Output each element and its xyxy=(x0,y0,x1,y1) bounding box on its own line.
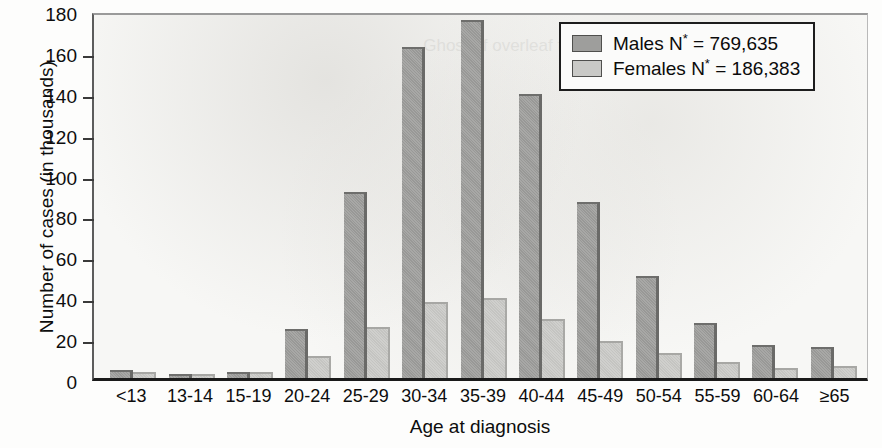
bar-group xyxy=(104,15,162,378)
y-axis-tick-label: 40 xyxy=(56,290,77,312)
bar-males-50-54[interactable] xyxy=(636,276,659,378)
y-axis-tick-label: 100 xyxy=(45,168,77,190)
y-axis-tick-20: 20 xyxy=(83,342,94,344)
bar-females-60-64[interactable] xyxy=(775,368,798,378)
y-axis-tick-60: 60 xyxy=(83,260,94,262)
x-axis-tick-label: 30-34 xyxy=(395,386,454,407)
bar-males-20-24[interactable] xyxy=(285,329,308,378)
bar-females-55-59[interactable] xyxy=(717,362,740,378)
x-axis-tick-label: 60-64 xyxy=(747,386,806,407)
x-axis-tick-label: 55-59 xyxy=(688,386,747,407)
bar-females-15-19[interactable] xyxy=(250,372,273,378)
bar-group xyxy=(162,15,220,378)
legend-entry-males: Males N* = 769,635 xyxy=(572,31,800,56)
bar-group xyxy=(338,15,396,378)
bar-females-45-49[interactable] xyxy=(600,341,623,378)
legend-label-males: Males N* = 769,635 xyxy=(613,31,778,55)
x-axis-tick-label: 50-54 xyxy=(629,386,688,407)
y-axis-tick-label: 120 xyxy=(45,127,77,149)
x-axis-tick-labels: <1313-1415-1920-2425-2930-3435-3940-4445… xyxy=(92,386,868,407)
y-axis-tick-120: 120 xyxy=(83,138,94,140)
bar-females-30-34[interactable] xyxy=(425,302,448,378)
x-axis-tick-label: 40-44 xyxy=(512,386,571,407)
x-axis-tick-label: 13-14 xyxy=(161,386,220,407)
bar-males-<13[interactable] xyxy=(110,370,133,378)
y-axis-title: Number of cases (in thousands) xyxy=(36,17,58,377)
bar-males-13-14[interactable] xyxy=(169,374,192,378)
bar-males-60-64[interactable] xyxy=(752,345,775,378)
bar-males-45-49[interactable] xyxy=(577,202,600,378)
bar-females-13-14[interactable] xyxy=(192,374,215,378)
y-axis-tick-0: 0 xyxy=(83,383,94,385)
bar-males-25-29[interactable] xyxy=(344,192,367,378)
y-axis-tick-label: 80 xyxy=(56,208,77,230)
x-axis-tick-label: 15-19 xyxy=(219,386,278,407)
bar-males-≥65[interactable] xyxy=(811,347,834,378)
bar-males-35-39[interactable] xyxy=(461,20,484,378)
bar-group xyxy=(396,15,454,378)
x-axis-tick-label: 45-49 xyxy=(571,386,630,407)
x-axis-tick-label: 25-29 xyxy=(336,386,395,407)
bar-group xyxy=(454,15,512,378)
bar-females-25-29[interactable] xyxy=(367,327,390,378)
bar-males-15-19[interactable] xyxy=(227,372,250,378)
y-axis-tick-40: 40 xyxy=(83,301,94,303)
bar-group xyxy=(279,15,337,378)
x-axis-tick-label: 20-24 xyxy=(278,386,337,407)
y-axis-tick-label: 140 xyxy=(45,86,77,108)
legend-swatch-females-icon xyxy=(572,60,602,77)
bar-males-55-59[interactable] xyxy=(694,323,717,378)
y-axis-tick-label: 20 xyxy=(56,331,77,353)
x-axis-tick-label: ≥65 xyxy=(805,386,864,407)
bar-females-<13[interactable] xyxy=(133,372,156,378)
y-axis-tick-label: 0 xyxy=(66,372,77,394)
x-axis-tick-label: 35-39 xyxy=(454,386,513,407)
x-axis-tick-label: <13 xyxy=(102,386,161,407)
legend-label-females: Females N* = 186,383 xyxy=(613,56,800,80)
y-axis-tick-140: 140 xyxy=(83,97,94,99)
y-axis-tick-100: 100 xyxy=(83,179,94,181)
bar-females-≥65[interactable] xyxy=(834,366,857,378)
legend-entry-females: Females N* = 186,383 xyxy=(572,56,800,81)
y-axis-tick-label: 60 xyxy=(56,249,77,271)
y-axis-tick-180: 180 xyxy=(83,15,94,17)
bar-females-50-54[interactable] xyxy=(659,353,682,378)
bar-females-35-39[interactable] xyxy=(484,298,507,378)
chart-legend: Males N* = 769,635 Females N* = 186,383 xyxy=(559,22,815,91)
bar-group xyxy=(221,15,279,378)
chart-figure: Number of cases (in thousands) Ghost of … xyxy=(0,0,882,448)
y-axis-tick-80: 80 xyxy=(83,219,94,221)
y-axis-tick-160: 160 xyxy=(83,56,94,58)
y-axis-tick-label: 180 xyxy=(45,4,77,26)
bar-females-20-24[interactable] xyxy=(308,356,331,378)
x-axis-title: Age at diagnosis xyxy=(92,416,868,438)
bar-males-40-44[interactable] xyxy=(519,94,542,378)
bar-females-40-44[interactable] xyxy=(542,319,565,378)
y-axis-tick-label: 160 xyxy=(45,45,77,67)
legend-swatch-males-icon xyxy=(572,35,602,52)
bar-males-30-34[interactable] xyxy=(402,47,425,378)
